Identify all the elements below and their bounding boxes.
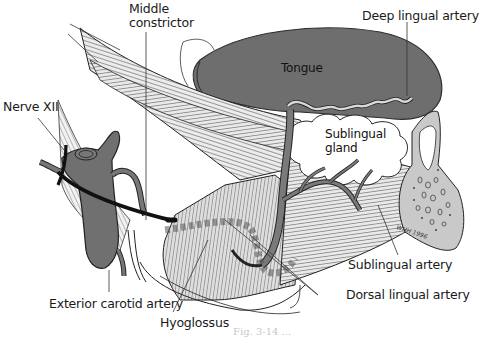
label-middle-constrictor-line1: Middle: [129, 2, 169, 15]
figure-caption-fragment: Fig. 3-14 ...: [233, 326, 291, 337]
label-middle-constrictor-line2: constrictor: [129, 16, 194, 29]
label-dorsal-lingual-artery: Dorsal lingual artery: [346, 288, 470, 301]
label-sublingual-gland-line2: gland: [325, 142, 358, 155]
label-hyoglossus: Hyoglossus: [160, 316, 229, 329]
label-sublingual-gland-line1: Sublingual: [325, 128, 386, 141]
label-exterior-carotid-artery: Exterior carotid artery: [49, 297, 183, 310]
label-tongue: Tongue: [281, 62, 323, 75]
label-deep-lingual-artery: Deep lingual artery: [362, 9, 479, 22]
label-sublingual-artery: Sublingual artery: [348, 258, 452, 271]
label-nerve-xii: Nerve XII: [3, 100, 58, 113]
